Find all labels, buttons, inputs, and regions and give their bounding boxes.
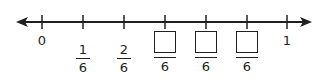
blank-numerator-box-5[interactable] [236, 31, 258, 53]
denominator: 6 [71, 61, 95, 74]
denominator: 6 [112, 61, 136, 74]
blank-numerator-box-3[interactable] [154, 31, 176, 53]
label-zero: 0 [32, 34, 52, 47]
denominator: 6 [161, 59, 169, 74]
fraction-blank-4: 6 [193, 57, 219, 73]
fraction-bar [117, 58, 131, 59]
fraction-bar [195, 57, 217, 58]
denominator: 6 [243, 59, 251, 74]
denominator: 6 [202, 59, 210, 74]
fraction-two-sixths: 2 6 [112, 43, 136, 74]
fraction-one-sixth: 1 6 [71, 43, 95, 74]
fraction-bar [76, 58, 90, 59]
label-one: 1 [277, 34, 297, 47]
fraction-blank-3: 6 [152, 57, 178, 73]
numerator: 2 [112, 43, 136, 57]
fraction-bar [236, 57, 258, 58]
numerator: 1 [71, 43, 95, 57]
blank-numerator-box-4[interactable] [195, 31, 217, 53]
fraction-bar [154, 57, 176, 58]
fraction-blank-5: 6 [234, 57, 260, 73]
